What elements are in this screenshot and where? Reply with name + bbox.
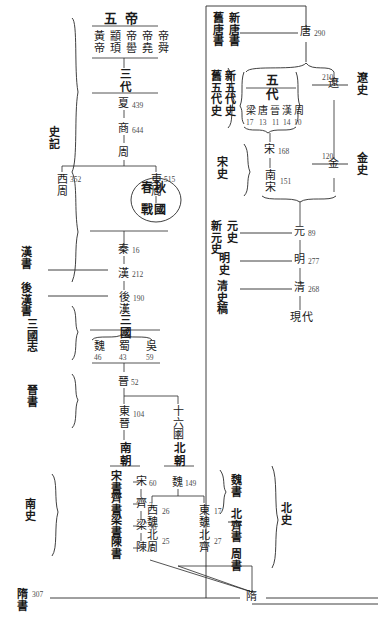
- years-xia: 439: [132, 102, 143, 110]
- dynasty-qin: 秦: [118, 244, 129, 255]
- history-label-suishu: 隋書: [16, 588, 27, 611]
- history-label-hanshu: 漢書: [20, 246, 31, 269]
- history-label-qishu: 齊書: [110, 492, 121, 515]
- history-label-qingshigao: 清史稿: [216, 280, 227, 315]
- history-label-chenshu: 陳書: [110, 536, 121, 559]
- years-wei-beichao: 149: [185, 480, 196, 488]
- emperor-dishun: 帝舜: [157, 30, 168, 53]
- history-label-liaoshi: 遼史: [356, 72, 367, 95]
- dynasty-qing: 清: [294, 282, 305, 293]
- history-label-sanguozhi: 三國志: [26, 318, 37, 353]
- dynasty-liang-wudai: 梁: [246, 106, 256, 116]
- years-liao: 210: [322, 74, 333, 82]
- period-sanguo: 三國: [118, 314, 130, 339]
- period-chunqiu: 春秋: [141, 182, 167, 194]
- years-tang: 290: [314, 30, 325, 38]
- years-song-northern: 168: [278, 148, 289, 156]
- history-label-jiutangshu: 舊唐書: [212, 12, 223, 47]
- dynasty-xia: 夏: [118, 98, 129, 109]
- years-jin-wudai: 11: [272, 119, 279, 127]
- section-header-wudi: 五帝: [104, 12, 146, 25]
- years-dongjin: 104: [133, 411, 144, 419]
- years-wei-sanguo: 46: [94, 354, 102, 362]
- years-xiwei: 26: [162, 508, 170, 516]
- dynasty-zhou-wudai: 周: [294, 106, 304, 116]
- history-label-jinshi: 金史: [356, 152, 367, 175]
- years-beizhou: 25: [162, 538, 170, 546]
- dynasty-shu: 蜀: [119, 341, 130, 352]
- years-ming: 277: [308, 258, 319, 266]
- history-label-beiqishu: 北齊書: [230, 508, 241, 543]
- years-xizhou: 352: [70, 176, 81, 184]
- dynasty-jin-wudai: 晉: [270, 106, 280, 116]
- years-song-nanchao: 60: [149, 480, 157, 488]
- history-label-xinyuanshi: 新元史: [210, 220, 221, 255]
- years-tang-wudai: 13: [259, 119, 267, 127]
- history-label-yuanshi: 元史: [226, 220, 237, 243]
- dynasty-zhou: 周: [118, 147, 129, 158]
- period-shiliuguo: 十六國: [172, 405, 183, 440]
- years-yuan: 89: [308, 230, 316, 238]
- period-zhanguo: 戰國: [141, 204, 167, 216]
- dynasty-han-wudai: 漢: [282, 106, 292, 116]
- dynasty-tang-wudai: 唐: [258, 106, 268, 116]
- dynasty-sui: 隋: [246, 591, 257, 602]
- years-sui: 307: [32, 591, 43, 599]
- years-zhou-wudai: 10: [294, 119, 302, 127]
- dynasty-shang: 商: [118, 123, 129, 134]
- dynasty-han: 漢: [118, 268, 129, 279]
- years-liang-wudai: 17: [246, 119, 254, 127]
- dynasty-xiwei: 西魏: [146, 504, 157, 527]
- history-label-jiuwudaishi: 舊五代史: [210, 70, 221, 116]
- years-beiqi: 27: [214, 538, 222, 546]
- history-label-shiji: 史記: [48, 126, 59, 149]
- history-label-xinwudaishi: 新五代史: [224, 70, 235, 116]
- history-label-songshi: 宋史: [216, 156, 227, 179]
- dynasty-dongwei: 東魏: [198, 504, 209, 527]
- dynasty-xizhou: 西周: [56, 173, 67, 196]
- period-beichao: 北朝: [172, 442, 184, 467]
- history-label-liangshu: 梁書: [110, 514, 121, 537]
- emperor-zhuanxu: 顓頊: [109, 30, 120, 53]
- history-label-beishi: 北史: [280, 502, 291, 525]
- dynasty-song-nanchao: 宋: [136, 476, 147, 487]
- emperor-diyao: 帝堯: [141, 30, 152, 53]
- years-jin-western: 52: [131, 379, 139, 387]
- history-label-mingshi: 明史: [218, 252, 229, 275]
- period-wudai: 五代: [264, 74, 277, 101]
- dynasty-chronology-chart: 史記 五帝 黃帝 顓頊 帝嚳 帝堯 帝舜 三代 夏 439 商 644 周 西周…: [0, 0, 383, 624]
- dynasty-wei-sanguo: 魏: [94, 341, 105, 352]
- dynasty-song-northern: 宋: [264, 144, 275, 155]
- dynasty-tang: 唐: [300, 26, 311, 37]
- history-label-jinshu: 晉書: [26, 384, 37, 407]
- dynasty-beiqi: 北齊: [198, 529, 209, 552]
- years-qing: 268: [308, 286, 319, 294]
- years-han: 212: [132, 271, 143, 279]
- dynasty-song-southern: 南宋: [264, 169, 275, 192]
- period-modern: 現代: [290, 312, 314, 323]
- dynasty-jin-western: 晉: [118, 376, 129, 387]
- years-jin-jurchen: 120: [322, 153, 333, 161]
- history-label-xintangshu: 新唐書: [228, 12, 239, 47]
- history-label-houhanshu: 後漢書: [20, 282, 31, 317]
- emperor-diku: 帝嚳: [125, 30, 136, 53]
- years-qin: 16: [132, 247, 140, 255]
- dynasty-wei-beichao: 魏: [172, 477, 183, 488]
- years-shu: 43: [119, 354, 127, 362]
- dynasty-houhan: 後漢: [118, 291, 129, 314]
- years-houhan: 190: [133, 295, 144, 303]
- dynasty-yuan: 元: [294, 226, 305, 237]
- history-label-nanshi: 南史: [24, 498, 35, 521]
- dynasty-ming: 明: [294, 254, 305, 265]
- history-label-songshu: 宋書: [110, 470, 121, 493]
- history-label-weishu: 魏書: [230, 474, 241, 497]
- years-shang: 644: [132, 127, 143, 135]
- period-nanchao: 南朝: [118, 442, 130, 467]
- dynasty-dongjin: 東晉: [118, 405, 129, 428]
- connector-lines: [0, 0, 383, 624]
- years-dongwei: 17: [214, 508, 222, 516]
- years-wu: 59: [146, 354, 154, 362]
- history-label-zhoushu: 周書: [230, 548, 241, 571]
- section-header-sandai: 三代: [118, 68, 130, 93]
- years-song-southern: 151: [280, 178, 291, 186]
